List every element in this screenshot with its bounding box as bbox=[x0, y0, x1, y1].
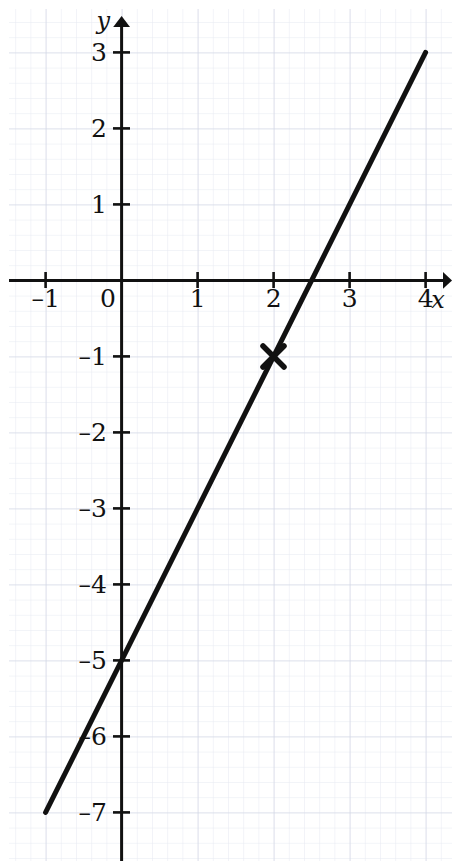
x-axis-label: x bbox=[431, 286, 445, 314]
y-tick-label--1: –1 bbox=[79, 342, 107, 371]
y-tick-label-2: 2 bbox=[91, 114, 107, 143]
x-tick-label--1: –1 bbox=[31, 284, 59, 313]
y-tick-label-1: 1 bbox=[91, 190, 107, 219]
x-tick-label-0: 0 bbox=[100, 284, 116, 313]
y-tick-label--4: –4 bbox=[79, 570, 107, 599]
x-tick-label-2: 2 bbox=[266, 284, 282, 313]
y-tick-label--7: –7 bbox=[79, 798, 107, 827]
coordinate-plane: –1 0 1 2 3 4 3 2 1 –1 –2 –3 –4 –5 –6 –7 … bbox=[0, 0, 452, 861]
y-tick-label--6: –6 bbox=[79, 722, 107, 751]
y-tick-label--2: –2 bbox=[79, 418, 107, 447]
graph-figure: –1 0 1 2 3 4 3 2 1 –1 –2 –3 –4 –5 –6 –7 … bbox=[0, 0, 452, 861]
y-tick-label--5: –5 bbox=[79, 646, 107, 675]
y-tick-label-3: 3 bbox=[91, 38, 107, 67]
x-tick-label-1: 1 bbox=[190, 284, 206, 313]
y-axis-label: y bbox=[95, 7, 110, 35]
x-tick-label-3: 3 bbox=[342, 284, 358, 313]
y-tick-label--3: –3 bbox=[79, 494, 107, 523]
